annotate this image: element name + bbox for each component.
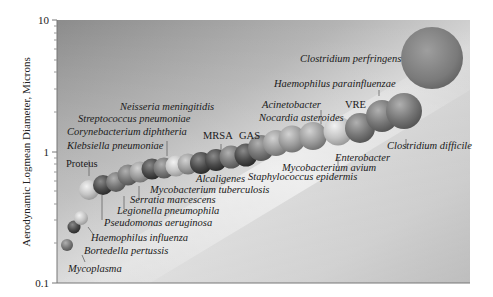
label-alcaligenes: Alcaligenes xyxy=(195,173,245,184)
label-serratia: Serratia marcescens xyxy=(130,194,216,205)
y-tick-10: 10 xyxy=(38,14,50,26)
label-haemophilus-influenza: Haemophilus influenza xyxy=(90,232,188,243)
label-enterobacter: Enterobacter xyxy=(334,152,391,163)
y-tick-1: 1 xyxy=(44,146,50,158)
label-mrsa: MRSA xyxy=(203,130,233,141)
label-haemophilus-para: Haemophilus parainfluenzae xyxy=(273,78,396,89)
label-c-difficile: Clostridium difficile xyxy=(387,140,472,151)
label-gas: GAS xyxy=(239,130,260,141)
label-proteus: Proteus xyxy=(66,158,98,169)
label-c-perfringens: Clostridium perfringens xyxy=(300,53,401,64)
sphere-c-difficile xyxy=(386,93,422,129)
label-klebsiella: Klebsiella pneumoniae xyxy=(66,140,164,151)
bacteria-size-chart: 10 1 0.1 Aerodynamic Logmean Diameter, M… xyxy=(0,0,493,297)
y-tick-0-1: 0.1 xyxy=(35,277,49,289)
sphere-acinetobacter xyxy=(299,122,327,150)
sphere-haemophilus-influenza xyxy=(74,211,88,225)
label-neisseria: Neisseria meningitidis xyxy=(119,101,214,112)
label-nocardia: Nocardia asteroides xyxy=(258,112,344,123)
label-bortedella: Bortedella pertussis xyxy=(84,245,168,256)
sphere-c-perfringens xyxy=(401,27,463,89)
y-axis-label: Aerodynamic Logmean Diameter, Microns xyxy=(20,57,32,247)
label-myco-avium: Mycobacterium avium xyxy=(281,162,377,173)
label-myco-tb: Mycobacterium tuberculosis xyxy=(149,184,269,195)
label-legionella: Legionella pneumophila xyxy=(116,205,219,216)
label-acinetobacter: Acinetobacter xyxy=(261,99,322,110)
label-vre: VRE xyxy=(345,99,366,110)
label-streptococcus: Streptococcus pneumoniae xyxy=(78,113,191,124)
sphere-mycoplasma xyxy=(61,239,73,251)
label-corynebacterium: Corynebacterium diphtheria xyxy=(67,126,187,137)
label-pseudomonas: Pseudomonas aeruginosa xyxy=(103,217,212,228)
label-mycoplasma: Mycoplasma xyxy=(67,263,122,274)
